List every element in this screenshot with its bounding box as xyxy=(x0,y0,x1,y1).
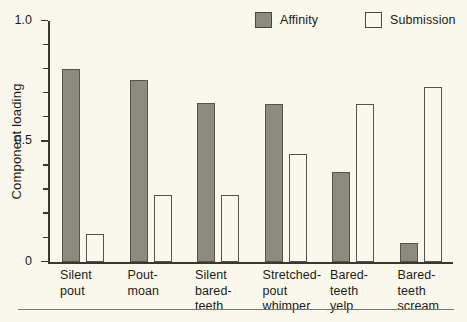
y-axis-tick-label: 0.5 xyxy=(15,134,32,147)
y-axis-tick-minor xyxy=(43,92,48,93)
bar-affinity-0 xyxy=(62,69,80,262)
y-axis-tick-label: 0 xyxy=(25,254,32,267)
x-axis-line xyxy=(48,262,453,264)
y-axis-tick-minor xyxy=(43,212,48,213)
bar-affinity-4 xyxy=(332,172,350,262)
x-axis-label-5: Bared- teeth scream xyxy=(398,268,440,315)
bar-affinity-5 xyxy=(400,243,418,262)
y-axis-tick-minor xyxy=(43,68,48,69)
y-axis-tick-minor xyxy=(43,188,48,189)
bar-affinity-3 xyxy=(265,104,283,262)
bar-submission-3 xyxy=(289,154,307,262)
bar-affinity-2 xyxy=(197,103,215,262)
x-axis-label-1: Pout- moan xyxy=(128,268,160,299)
bar-submission-5 xyxy=(424,87,442,262)
y-axis-tick-label: 1.0 xyxy=(15,13,32,26)
y-axis-line xyxy=(48,21,50,262)
x-axis-label-0: Silent pout xyxy=(60,268,92,299)
bottom-rule-divider xyxy=(18,309,454,310)
x-axis-label-3: Stretched- pout whimper xyxy=(263,268,322,315)
bar-affinity-1 xyxy=(130,80,148,262)
bar-submission-0 xyxy=(86,234,104,262)
y-axis-tick-minor xyxy=(43,44,48,45)
y-axis-tick-major: 1.0 xyxy=(41,20,48,21)
x-axis-label-2: Silent bared- teeth xyxy=(195,268,232,315)
y-axis-tick-minor xyxy=(43,237,48,238)
y-axis-tick-major: 0 xyxy=(41,261,48,262)
y-axis-tick-minor xyxy=(43,116,48,117)
y-axis-tick-minor xyxy=(43,164,48,165)
bar-submission-2 xyxy=(221,195,239,262)
x-axis-label-4: Bared- teeth yelp xyxy=(330,268,368,315)
bar-submission-4 xyxy=(356,104,374,262)
bar-chart-figure: Affinity Submission Component loading 00… xyxy=(0,0,467,322)
y-axis-tick-major: 0.5 xyxy=(41,140,48,141)
bar-submission-1 xyxy=(154,195,172,262)
plot-area: 00.51.0 xyxy=(48,21,453,262)
